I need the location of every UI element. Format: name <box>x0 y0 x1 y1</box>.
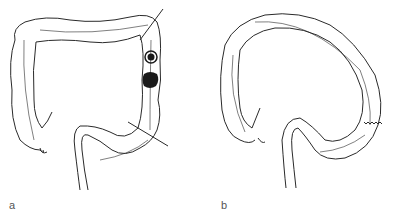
panel-b-colon <box>221 14 381 188</box>
panel-b-label: b <box>221 199 227 211</box>
colon-diagram <box>0 0 393 217</box>
anastomosis-suture <box>364 122 382 124</box>
panel-a-label: a <box>9 199 15 211</box>
tumor-icon <box>143 72 159 88</box>
panel-a-colon <box>11 15 161 190</box>
polyp-core <box>148 54 155 61</box>
